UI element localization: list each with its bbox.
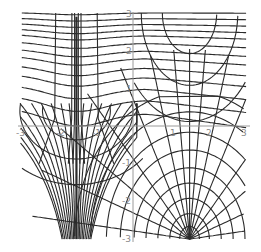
grid-curve xyxy=(97,13,114,164)
x-tick-label: 2 xyxy=(206,128,212,138)
x-tick-label: 1 xyxy=(170,128,176,138)
y-tick-label: -3 xyxy=(122,234,131,244)
x-tick-label: -1 xyxy=(92,128,101,138)
y-tick-label: 2 xyxy=(126,46,132,56)
y-tick-label: 3 xyxy=(126,9,132,19)
x-tick-label: -2 xyxy=(56,128,65,138)
x-tick-label: 3 xyxy=(241,128,247,138)
y-tick-label: -1 xyxy=(122,158,131,168)
y-tick-label: -2 xyxy=(122,196,131,206)
grid-curve xyxy=(39,13,56,164)
grid-curve xyxy=(190,50,206,239)
grid-curve xyxy=(73,13,75,164)
curvilinear-grid-plot: -3 -2 -1 1 2 3 3 2 1 -1 -2 -3 xyxy=(0,0,261,252)
y-tick-label: 1 xyxy=(126,84,132,94)
x-tick-label: -3 xyxy=(16,128,25,138)
grid-curve xyxy=(78,13,80,164)
grid-curve xyxy=(174,50,190,239)
